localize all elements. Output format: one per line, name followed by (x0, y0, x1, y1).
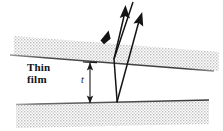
incident-arrowhead (101, 30, 111, 44)
thickness-dimension (83, 62, 97, 104)
thickness-label: t (81, 74, 84, 85)
medium-label: Thin film (27, 61, 50, 85)
refracted-ray (114, 59, 117, 103)
thin-film-diagram: Thin film t (0, 0, 223, 131)
reflected-ray-1-arrowhead (120, 5, 130, 19)
